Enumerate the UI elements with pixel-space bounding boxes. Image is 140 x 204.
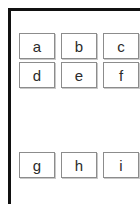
- diagram-canvas: a b c d e f g h i: [0, 0, 140, 204]
- letter-cell[interactable]: a: [19, 33, 55, 59]
- letter-cell-label: d: [33, 68, 41, 83]
- frame-top-rule: [8, 8, 140, 11]
- letter-cell[interactable]: e: [61, 62, 97, 88]
- letter-cell[interactable]: b: [61, 33, 97, 59]
- letter-cell-label: b: [75, 39, 83, 54]
- letter-cell[interactable]: f: [103, 62, 139, 88]
- letter-cell[interactable]: g: [19, 152, 55, 178]
- letter-row-3: g h i: [19, 152, 139, 178]
- letter-cell-label: f: [119, 68, 123, 83]
- letter-cell-label: a: [33, 39, 41, 54]
- letter-row-1: a b c: [19, 33, 139, 59]
- letter-cell-label: e: [75, 68, 83, 83]
- frame-left-rule: [8, 8, 11, 204]
- letter-cell[interactable]: c: [103, 33, 139, 59]
- letter-cell[interactable]: h: [61, 152, 97, 178]
- letter-cell[interactable]: i: [103, 152, 139, 178]
- letter-cell-label: h: [75, 158, 83, 173]
- letter-row-2: d e f: [19, 62, 139, 88]
- letter-cell[interactable]: d: [19, 62, 55, 88]
- letter-cell-label: c: [117, 39, 125, 54]
- letter-cell-label: i: [119, 158, 122, 173]
- letter-cell-label: g: [33, 158, 41, 173]
